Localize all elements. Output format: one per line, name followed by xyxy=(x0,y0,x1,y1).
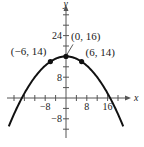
x-axis-label: x xyxy=(133,92,139,103)
point-label: (6, 14) xyxy=(86,46,116,59)
y-axis-label: y xyxy=(63,0,69,9)
parabola-chart: xy −8816248−8 (−6, 14)(0, 16)(6, 14) xyxy=(0,0,144,147)
data-point xyxy=(79,59,84,64)
data-point xyxy=(48,59,53,64)
x-tick-label: 8 xyxy=(84,101,89,112)
y-tick-label: −8 xyxy=(51,113,62,124)
y-tick-label: 8 xyxy=(57,72,62,83)
y-tick-label: 24 xyxy=(52,30,62,41)
x-tick-label: 16 xyxy=(103,101,113,112)
data-point xyxy=(63,54,68,59)
x-axis-arrow xyxy=(125,96,131,101)
point-label: (0, 16) xyxy=(71,30,101,43)
point-label: (−6, 14) xyxy=(11,45,47,58)
x-tick-label: −8 xyxy=(40,101,51,112)
labels: (−6, 14)(0, 16)(6, 14) xyxy=(11,30,115,58)
